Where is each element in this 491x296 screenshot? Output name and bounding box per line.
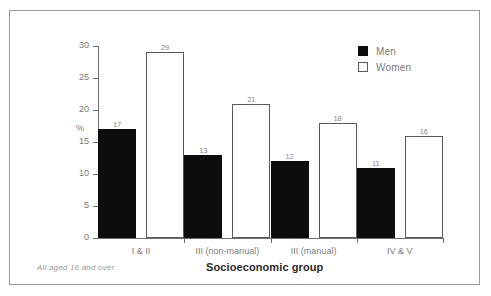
y-tick: 0 bbox=[93, 238, 98, 239]
bar-men-2: 12 bbox=[271, 161, 309, 238]
bar-value-label: 29 bbox=[161, 43, 169, 52]
x-axis-title: Socioeconomic group bbox=[206, 261, 323, 273]
x-category-label-0: I & II bbox=[132, 246, 151, 256]
bar-value-label: 18 bbox=[333, 114, 341, 123]
y-tick-label: 15 bbox=[79, 136, 89, 146]
bar-men-0: 17 bbox=[98, 129, 136, 238]
bar-women-0: 29 bbox=[146, 52, 184, 238]
legend-swatch-women-icon bbox=[358, 62, 368, 72]
y-tick: 25 bbox=[93, 78, 98, 79]
bar-men-1: 13 bbox=[184, 155, 222, 238]
legend-item-men: Men bbox=[358, 44, 411, 58]
chart-footnote: All aged 16 and over bbox=[37, 263, 114, 272]
legend-swatch-men-icon bbox=[358, 46, 368, 56]
chart-legend: Men Women bbox=[358, 44, 411, 76]
y-tick-label: 5 bbox=[84, 200, 89, 210]
y-tick-label: 20 bbox=[79, 104, 89, 114]
x-tick bbox=[443, 238, 444, 243]
bar-value-label: 11 bbox=[372, 159, 380, 168]
x-category-label-1: III (non-manual) bbox=[196, 246, 260, 256]
bar-men-3: 11 bbox=[357, 168, 395, 238]
chart-frame: 051015202530 % 1729132112181116 I & IIII… bbox=[9, 10, 480, 285]
legend-item-women: Women bbox=[358, 60, 411, 74]
bar-women-2: 18 bbox=[319, 123, 357, 238]
y-tick-label: 0 bbox=[84, 232, 89, 242]
x-tick bbox=[184, 238, 185, 243]
bar-value-label: 21 bbox=[247, 95, 255, 104]
bar-women-1: 21 bbox=[232, 104, 270, 238]
legend-label-women: Women bbox=[376, 62, 411, 73]
x-tick bbox=[357, 238, 358, 243]
bar-value-label: 16 bbox=[420, 127, 428, 136]
x-tick bbox=[271, 238, 272, 243]
bar-value-label: 17 bbox=[113, 120, 121, 129]
y-tick-label: 25 bbox=[79, 72, 89, 82]
y-tick-label: 10 bbox=[79, 168, 89, 178]
bar-women-3: 16 bbox=[405, 136, 443, 238]
legend-label-men: Men bbox=[376, 46, 396, 57]
bar-value-label: 12 bbox=[285, 152, 293, 161]
bar-value-label: 13 bbox=[199, 146, 207, 155]
y-axis-unit-label: % bbox=[76, 123, 84, 133]
y-tick: 20 bbox=[93, 110, 98, 111]
x-category-label-3: IV & V bbox=[387, 246, 413, 256]
y-tick: 30 bbox=[93, 46, 98, 47]
x-category-label-2: III (manual) bbox=[291, 246, 337, 256]
y-tick-label: 30 bbox=[79, 40, 89, 50]
